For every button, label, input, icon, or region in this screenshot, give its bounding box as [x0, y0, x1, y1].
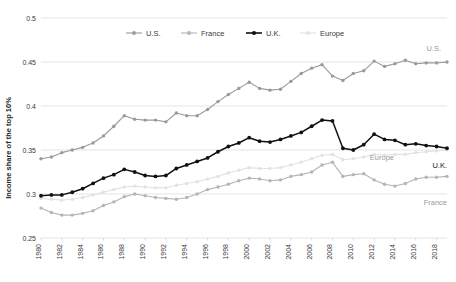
series-end-label-europe: Europe	[370, 153, 394, 162]
data-point	[435, 149, 438, 152]
data-point	[435, 61, 438, 64]
x-tick-label: 2002	[264, 244, 271, 260]
x-tick-label: 2016	[410, 244, 417, 260]
data-point	[174, 167, 178, 171]
data-point	[352, 157, 355, 160]
data-point	[341, 79, 344, 82]
data-point	[299, 131, 303, 135]
data-point	[164, 186, 167, 189]
data-point	[81, 212, 84, 215]
data-point	[112, 173, 116, 177]
legend-label: France	[201, 29, 224, 38]
data-point	[247, 136, 251, 140]
data-point	[237, 169, 240, 172]
data-point	[227, 183, 230, 186]
data-point	[393, 138, 397, 142]
chart-canvas: 0.50.450.40.350.30.25 198019821984198619…	[0, 0, 456, 282]
data-point	[320, 118, 324, 122]
data-point	[404, 182, 407, 185]
legend-item-us[interactable]: U.S.	[126, 29, 161, 38]
data-point	[70, 190, 74, 194]
series-end-label-france: France	[424, 198, 447, 207]
data-point	[300, 173, 303, 176]
income-share-line-chart: 0.50.450.40.350.30.25 198019821984198619…	[0, 0, 456, 282]
x-tick-label: 1980	[35, 244, 42, 260]
series-us	[39, 59, 448, 161]
data-point	[320, 63, 323, 66]
data-point	[331, 153, 334, 156]
data-point	[81, 196, 84, 199]
data-point	[39, 206, 42, 209]
data-point	[185, 114, 188, 117]
data-point	[123, 114, 126, 117]
data-point	[133, 192, 136, 195]
y-tick-label: 0.5	[26, 15, 36, 22]
data-point	[248, 166, 251, 169]
data-point	[268, 88, 271, 91]
legend-item-europe[interactable]: Europe	[300, 29, 344, 38]
data-point	[268, 167, 271, 170]
data-point	[50, 193, 54, 197]
data-point	[185, 196, 188, 199]
data-point	[39, 194, 43, 198]
data-point	[237, 87, 240, 90]
data-point	[310, 157, 313, 160]
data-point	[341, 146, 345, 150]
data-point	[122, 167, 126, 171]
data-point	[216, 150, 220, 154]
data-point	[102, 204, 105, 207]
x-tick-label: 1988	[118, 244, 125, 260]
data-point	[81, 187, 85, 191]
x-tick-label: 2010	[347, 244, 354, 260]
data-point	[185, 163, 189, 167]
data-point	[237, 141, 241, 145]
data-point	[393, 62, 396, 65]
x-tick-label: 2012	[368, 244, 375, 260]
data-point	[268, 179, 271, 182]
data-point	[112, 188, 115, 191]
data-point	[445, 146, 449, 150]
data-point	[258, 177, 261, 180]
data-point	[268, 140, 272, 144]
data-point	[102, 134, 105, 137]
data-point	[195, 180, 198, 183]
data-point	[185, 182, 188, 185]
data-point	[372, 132, 376, 136]
data-point	[341, 175, 344, 178]
data-point	[258, 167, 261, 170]
data-point	[195, 160, 199, 164]
data-point	[60, 193, 64, 197]
legend-marker-icon	[306, 31, 310, 35]
x-tick-label: 2014	[389, 244, 396, 260]
legend-item-france[interactable]: France	[181, 29, 224, 38]
data-point	[414, 151, 417, 154]
x-tick-label: 2004	[285, 244, 292, 260]
data-point	[279, 138, 283, 142]
data-point	[71, 213, 74, 216]
y-tick-label: 0.4	[26, 103, 36, 110]
x-tick-label: 2008	[326, 244, 333, 260]
legend-item-uk[interactable]: U.K.	[246, 29, 281, 38]
data-point	[383, 65, 386, 68]
y-tick-label: 0.3	[26, 191, 36, 198]
data-point	[91, 182, 95, 186]
data-point	[71, 198, 74, 201]
data-point	[226, 145, 230, 149]
data-point	[403, 143, 407, 147]
legend-label: U.K.	[266, 29, 281, 38]
legend-label: U.S.	[146, 29, 161, 38]
data-point	[216, 100, 219, 103]
data-point	[164, 197, 167, 200]
data-point	[424, 144, 428, 148]
x-tick-label: 2000	[243, 244, 250, 260]
data-point	[143, 194, 146, 197]
data-point	[91, 141, 94, 144]
data-point	[289, 134, 293, 138]
series-line	[41, 60, 447, 159]
data-point	[154, 196, 157, 199]
data-point	[60, 151, 63, 154]
data-point	[206, 177, 209, 180]
data-point	[102, 191, 105, 194]
data-point	[154, 186, 157, 189]
data-point	[383, 138, 387, 142]
